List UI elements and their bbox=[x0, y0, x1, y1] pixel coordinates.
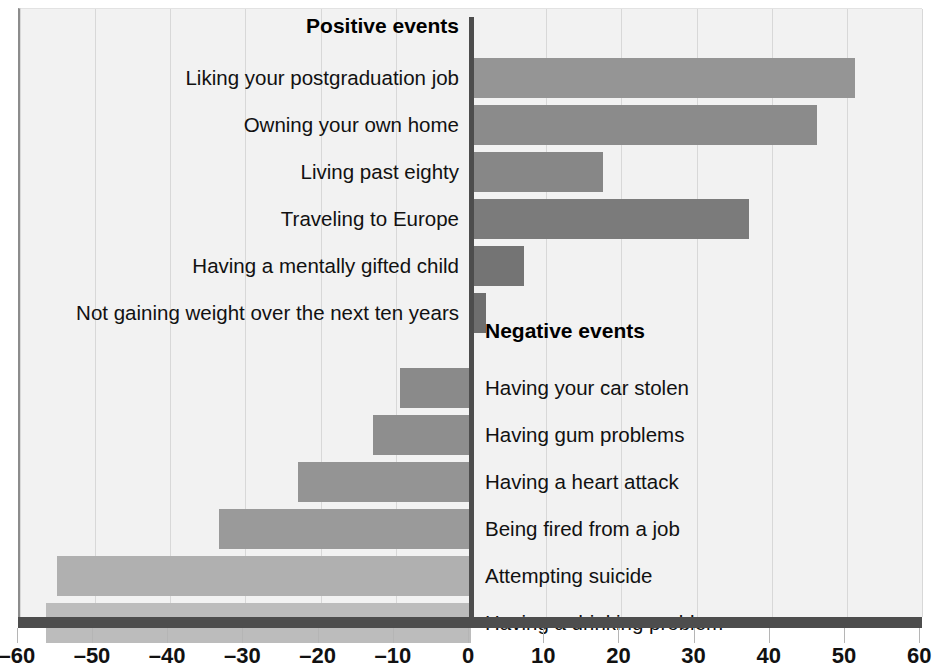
category-label: Being fired from a job bbox=[485, 519, 680, 540]
x-tick-label: 30 bbox=[681, 645, 705, 667]
x-tick bbox=[618, 628, 619, 643]
x-tick bbox=[92, 628, 93, 643]
gridline bbox=[20, 9, 21, 617]
bar bbox=[471, 105, 817, 145]
gridline bbox=[697, 9, 698, 617]
bar bbox=[57, 556, 471, 596]
plot-area: Liking your postgraduation jobOwning you… bbox=[18, 8, 922, 617]
zero-axis-line bbox=[469, 17, 474, 618]
category-label: Attempting suicide bbox=[485, 566, 653, 587]
bar bbox=[471, 199, 749, 239]
category-label: Owning your own home bbox=[244, 115, 459, 136]
x-tick-label: 40 bbox=[757, 645, 781, 667]
x-tick bbox=[919, 628, 920, 643]
bar bbox=[471, 58, 855, 98]
x-tick-label: –40 bbox=[149, 645, 186, 667]
category-label: Living past eighty bbox=[301, 162, 459, 183]
x-axis-bar bbox=[18, 617, 922, 628]
x-tick-label: 20 bbox=[606, 645, 630, 667]
x-tick bbox=[318, 628, 319, 643]
bar bbox=[219, 509, 471, 549]
x-tick bbox=[17, 628, 18, 643]
x-tick bbox=[468, 628, 469, 643]
x-tick bbox=[844, 628, 845, 643]
bar bbox=[373, 415, 471, 455]
positive-events-heading: Positive events bbox=[306, 15, 459, 36]
gridline bbox=[922, 9, 923, 617]
x-tick-label: –10 bbox=[374, 645, 411, 667]
bar bbox=[471, 152, 603, 192]
category-label: Having a heart attack bbox=[485, 472, 679, 493]
x-tick-label: –50 bbox=[74, 645, 111, 667]
bar bbox=[471, 246, 524, 286]
category-label: Having gum problems bbox=[485, 425, 684, 446]
x-tick bbox=[167, 628, 168, 643]
x-tick bbox=[769, 628, 770, 643]
gridline bbox=[772, 9, 773, 617]
x-tick-label: 50 bbox=[832, 645, 856, 667]
gridline bbox=[847, 9, 848, 617]
x-tick-label: –30 bbox=[224, 645, 261, 667]
x-tick-label: 10 bbox=[531, 645, 555, 667]
x-tick-label: –60 bbox=[0, 645, 35, 667]
category-label: Having your car stolen bbox=[485, 378, 689, 399]
x-tick bbox=[694, 628, 695, 643]
bar bbox=[298, 462, 471, 502]
x-tick-label: –20 bbox=[299, 645, 336, 667]
x-tick-label: 60 bbox=[907, 645, 931, 667]
bar-chart-figure: Liking your postgraduation jobOwning you… bbox=[0, 0, 940, 672]
category-label: Traveling to Europe bbox=[281, 209, 459, 230]
category-label: Having a mentally gifted child bbox=[192, 256, 459, 277]
category-label: Liking your postgraduation job bbox=[185, 68, 459, 89]
category-label: Not gaining weight over the next ten yea… bbox=[76, 303, 459, 324]
x-tick-label: 0 bbox=[462, 645, 474, 667]
x-tick bbox=[393, 628, 394, 643]
x-tick bbox=[242, 628, 243, 643]
bar bbox=[400, 368, 471, 408]
x-tick bbox=[543, 628, 544, 643]
negative-events-heading: Negative events bbox=[485, 320, 645, 341]
